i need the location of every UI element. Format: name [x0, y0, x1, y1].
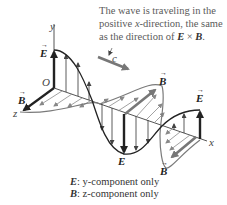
- caption-line-1: The wave is traveling in the: [99, 4, 227, 17]
- wave-caption: The wave is traveling in the positive x-…: [99, 4, 227, 43]
- svg-text:→: →: [161, 159, 168, 167]
- component-legend: E: y-component only B: z-component only: [70, 176, 159, 200]
- svg-text:→: →: [19, 88, 26, 96]
- speed-label: c: [112, 52, 117, 64]
- svg-text:→: →: [41, 41, 48, 49]
- label-b-origin: B →: [17, 88, 26, 106]
- y-axis-label: y: [49, 20, 55, 32]
- svg-text:→: →: [119, 149, 126, 157]
- label-e-trough: E →: [117, 149, 126, 167]
- label-e-end: E →: [195, 86, 204, 104]
- label-b-end: B →: [159, 159, 168, 177]
- caption-line-3: as the direction of E × B.: [99, 30, 227, 43]
- legend-b: B: z-component only: [70, 188, 159, 200]
- b-vector-mid: [125, 90, 155, 114]
- origin-label: O: [42, 76, 50, 88]
- label-b-peak: B →: [158, 69, 167, 87]
- z-axis-label: z: [12, 107, 18, 119]
- caption-line-2: positive x-direction, the same: [99, 17, 227, 30]
- svg-text:→: →: [160, 69, 167, 77]
- label-e-origin: E →: [39, 41, 48, 59]
- legend-e: E: y-component only: [70, 176, 159, 188]
- svg-text:→: →: [197, 86, 204, 94]
- x-axis-label: x: [208, 136, 214, 148]
